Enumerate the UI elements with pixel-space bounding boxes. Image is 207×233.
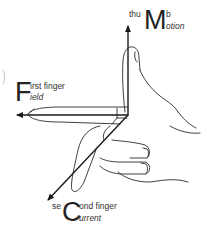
- first-finger-label: F irst finger ield: [15, 78, 90, 106]
- thumb-suffix: b: [166, 10, 171, 19]
- second-finger-prefix: se: [52, 202, 61, 211]
- motion-text: otion: [166, 22, 184, 31]
- hand-outline: [28, 47, 200, 192]
- second-finger-text: ond finger: [79, 202, 117, 211]
- thumb-prefix: thu: [129, 10, 141, 19]
- first-finger-text: irst finger: [30, 82, 65, 91]
- second-finger-label: se C ond finger urrent: [52, 198, 132, 228]
- thumb-initial: M: [144, 7, 166, 34]
- thumb-label: thu M b otion: [129, 6, 199, 32]
- current-text: urrent: [79, 214, 101, 223]
- vector-arrows: [17, 26, 128, 200]
- first-finger-initial: F: [15, 79, 31, 106]
- current-arrow: [48, 115, 128, 200]
- second-finger-initial: C: [62, 199, 81, 226]
- field-text: ield: [30, 93, 43, 102]
